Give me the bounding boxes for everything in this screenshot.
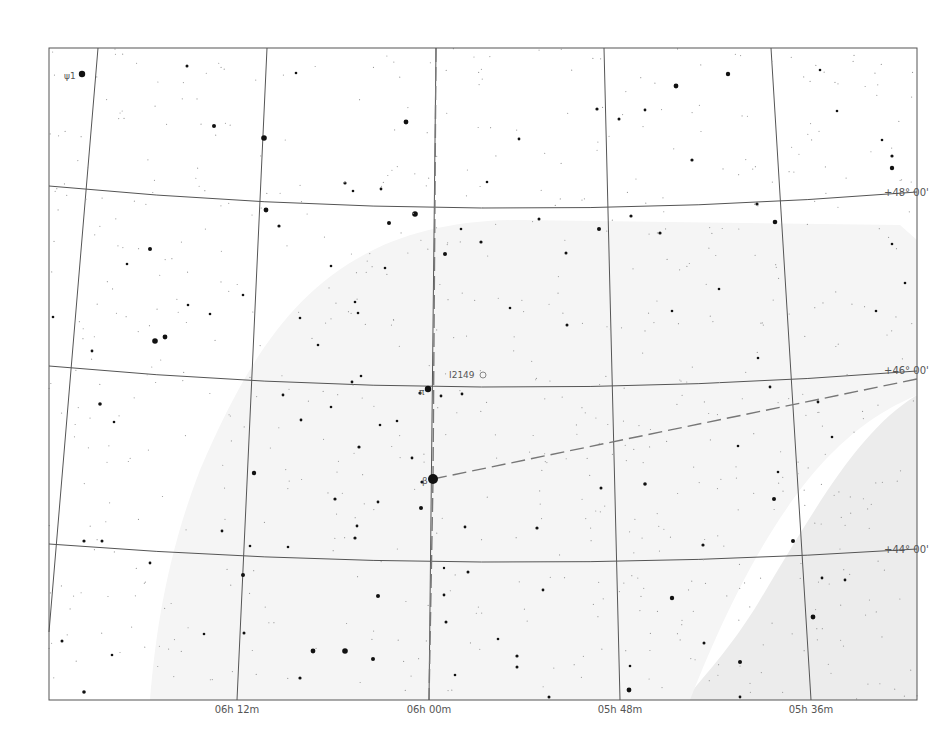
star[interactable]: [351, 381, 354, 384]
star[interactable]: [353, 536, 356, 539]
star[interactable]: [821, 577, 824, 580]
star[interactable]: [817, 401, 820, 404]
star[interactable]: [295, 72, 298, 75]
star[interactable]: [777, 471, 780, 474]
star[interactable]: [376, 594, 380, 598]
star[interactable]: [287, 546, 290, 549]
star[interactable]: [149, 562, 152, 565]
star[interactable]: [769, 386, 772, 389]
star[interactable]: [890, 166, 894, 170]
star[interactable]: [163, 335, 168, 340]
star[interactable]: [333, 497, 336, 500]
star[interactable]: [464, 526, 467, 529]
star[interactable]: [384, 267, 387, 270]
star[interactable]: [221, 530, 224, 533]
star[interactable]: [755, 202, 758, 205]
star[interactable]: [425, 386, 431, 392]
star[interactable]: [460, 228, 463, 231]
star[interactable]: [212, 124, 216, 128]
star[interactable]: [565, 252, 568, 255]
star[interactable]: [844, 579, 847, 582]
star[interactable]: [509, 307, 512, 310]
star[interactable]: [282, 394, 285, 397]
star[interactable]: [718, 288, 721, 291]
star[interactable]: [111, 654, 114, 657]
star[interactable]: [311, 649, 316, 654]
star[interactable]: [277, 224, 280, 227]
star[interactable]: [299, 317, 302, 320]
star[interactable]: [904, 282, 907, 285]
star[interactable]: [419, 506, 423, 510]
star[interactable]: [396, 420, 399, 423]
star[interactable]: [300, 419, 303, 422]
star[interactable]: [618, 118, 621, 121]
star[interactable]: [597, 227, 601, 231]
star[interactable]: [875, 310, 878, 313]
star[interactable]: [515, 654, 518, 657]
star[interactable]: [629, 214, 632, 217]
star[interactable]: [658, 231, 661, 234]
star[interactable]: [831, 436, 834, 439]
star[interactable]: [811, 615, 816, 620]
star[interactable]: [242, 294, 245, 297]
star[interactable]: [249, 545, 252, 548]
star[interactable]: [890, 154, 893, 157]
star[interactable]: [79, 71, 85, 77]
star[interactable]: [411, 457, 414, 460]
star-chart-canvas[interactable]: 06h 12m06h 00m05h 48m05h 36m+48° 00'+46°…: [0, 0, 949, 750]
star[interactable]: [387, 221, 391, 225]
star[interactable]: [726, 72, 730, 76]
star[interactable]: [819, 69, 822, 72]
star[interactable]: [443, 594, 446, 597]
star[interactable]: [443, 567, 445, 569]
star[interactable]: [113, 421, 116, 424]
star[interactable]: [428, 474, 438, 484]
star[interactable]: [548, 696, 551, 699]
star[interactable]: [243, 632, 246, 635]
star[interactable]: [643, 482, 647, 486]
star[interactable]: [891, 243, 894, 246]
star[interactable]: [454, 674, 457, 677]
star[interactable]: [600, 487, 603, 490]
star[interactable]: [203, 633, 206, 636]
star[interactable]: [317, 344, 320, 347]
star[interactable]: [186, 65, 189, 68]
star[interactable]: [467, 571, 470, 574]
star[interactable]: [629, 665, 632, 668]
star[interactable]: [440, 395, 443, 398]
star[interactable]: [357, 312, 360, 315]
star[interactable]: [357, 445, 360, 448]
star[interactable]: [252, 471, 256, 475]
star[interactable]: [126, 263, 129, 266]
star[interactable]: [627, 688, 632, 693]
star[interactable]: [836, 110, 839, 113]
star[interactable]: [187, 304, 190, 307]
star[interactable]: [479, 240, 482, 243]
star[interactable]: [671, 310, 674, 313]
star[interactable]: [670, 596, 674, 600]
star[interactable]: [354, 301, 357, 304]
star[interactable]: [566, 324, 569, 327]
star[interactable]: [538, 218, 541, 221]
star[interactable]: [773, 220, 778, 225]
star[interactable]: [737, 445, 740, 448]
star[interactable]: [352, 190, 355, 193]
star[interactable]: [298, 676, 301, 679]
star[interactable]: [261, 135, 267, 141]
star[interactable]: [497, 638, 500, 641]
star[interactable]: [595, 107, 598, 110]
star[interactable]: [690, 158, 693, 161]
star[interactable]: [342, 648, 348, 654]
star[interactable]: [148, 247, 152, 251]
star[interactable]: [101, 540, 104, 543]
star[interactable]: [739, 696, 742, 699]
star[interactable]: [264, 208, 269, 213]
star[interactable]: [881, 139, 884, 142]
star[interactable]: [674, 84, 679, 89]
star[interactable]: [152, 338, 158, 344]
star[interactable]: [701, 543, 704, 546]
star[interactable]: [241, 573, 245, 577]
star[interactable]: [644, 109, 647, 112]
star[interactable]: [518, 138, 521, 141]
star[interactable]: [360, 375, 363, 378]
